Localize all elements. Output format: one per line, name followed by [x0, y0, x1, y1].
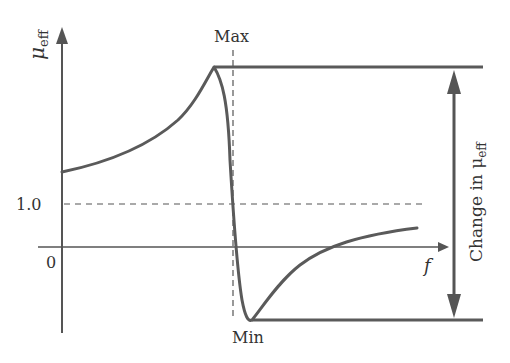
permeability-diagram: μeff 1.0 0 Max Min f Change in μeff: [0, 0, 510, 363]
change-double-arrow: [447, 70, 461, 318]
change-label: Change in μeff: [466, 141, 489, 262]
mu-eff-curve: [62, 67, 417, 320]
x-axis-arrow-icon: [438, 242, 449, 252]
arrow-up-icon: [447, 70, 461, 94]
tick-label-zero: 0: [46, 253, 56, 272]
diagram-canvas: μeff 1.0 0 Max Min f Change in μeff: [0, 0, 510, 363]
max-label: Max: [214, 27, 249, 46]
y-axis: [56, 27, 68, 333]
y-axis-arrow-icon: [56, 27, 68, 44]
x-axis-label: f: [422, 255, 434, 276]
x-axis: [38, 242, 449, 252]
y-axis-label: μeff: [25, 28, 51, 60]
arrow-down-icon: [447, 294, 461, 318]
min-label: Min: [232, 328, 264, 347]
tick-label-one: 1.0: [16, 195, 41, 214]
